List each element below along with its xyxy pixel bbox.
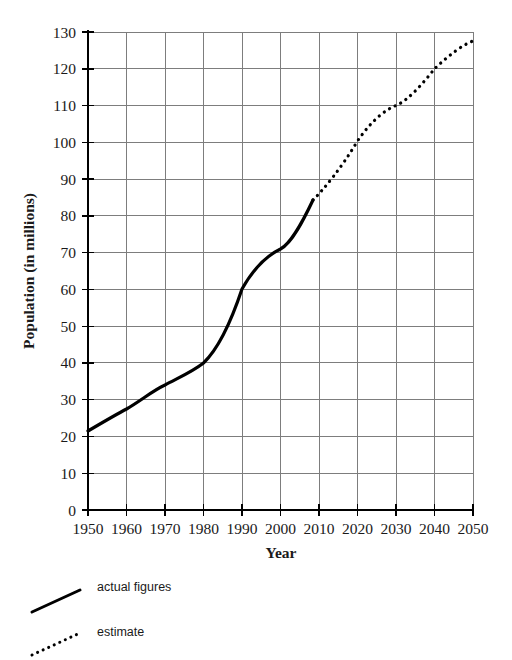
x-tick-label: 2000	[265, 520, 296, 537]
x-tick-label: 1980	[188, 520, 219, 537]
y-tick-label: 70	[61, 244, 77, 261]
y-tick-label: 40	[61, 354, 77, 371]
legend-swatch-dotted	[32, 633, 80, 655]
y-tick-label: 20	[61, 428, 77, 445]
y-tick-label: 0	[68, 502, 76, 519]
x-tick-label: 2030	[381, 520, 412, 537]
x-tick-label: 1990	[227, 520, 258, 537]
legend-label-estimate: estimate	[97, 625, 144, 639]
x-tick-label: 2010	[304, 520, 335, 537]
x-tick-label: 1960	[111, 520, 142, 537]
x-tick-labels: 1950 1960 1970 1980 1990 2000 2010 2020 …	[73, 520, 489, 537]
x-gridlines	[127, 32, 474, 510]
y-tick-label: 80	[61, 207, 77, 224]
y-tick-label: 50	[61, 318, 77, 335]
x-tick-label: 1970	[150, 520, 181, 537]
y-tick-label: 110	[53, 97, 76, 114]
y-tick-label: 100	[53, 134, 77, 151]
y-tick-label: 60	[61, 281, 77, 298]
chart-legend: actual figures estimate	[32, 580, 171, 655]
series-estimate	[313, 41, 473, 200]
y-axis-title: Population (in millions)	[20, 193, 38, 349]
y-tick-label: 30	[61, 391, 77, 408]
x-tick-label: 2040	[419, 520, 450, 537]
legend-swatch-solid	[32, 590, 80, 612]
y-tick-labels: 130 120 110 100 90 80 70 60 50 40 30 20 …	[53, 24, 77, 519]
x-tick-label: 1950	[73, 520, 104, 537]
x-axis-title: Year	[266, 544, 297, 561]
x-tick-label: 2020	[342, 520, 373, 537]
y-tick-label: 90	[61, 171, 77, 188]
chart-svg: 130 120 110 100 90 80 70 60 50 40 30 20 …	[0, 0, 512, 660]
y-tick-label: 10	[61, 465, 77, 482]
y-tick-label: 130	[53, 24, 77, 41]
x-tick-label: 2050	[458, 520, 489, 537]
legend-label-actual-figures: actual figures	[97, 580, 171, 594]
population-line-chart: 130 120 110 100 90 80 70 60 50 40 30 20 …	[0, 0, 512, 660]
y-tick-label: 120	[53, 60, 77, 77]
series-actual-figures	[88, 200, 313, 431]
